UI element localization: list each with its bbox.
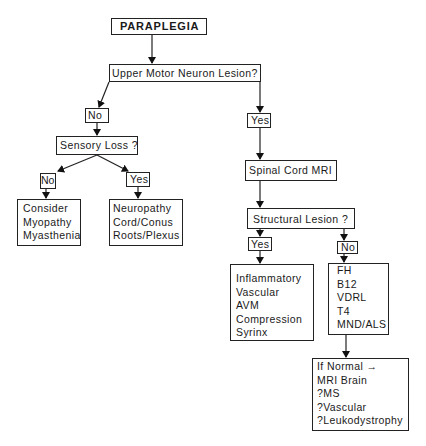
tests-line-4: T4 <box>337 305 388 319</box>
causes-line-5: Syrinx <box>236 326 313 340</box>
neuropathy-line-2: Cord/Conus <box>113 216 182 230</box>
node-structural-yes-label: Yes <box>251 238 271 250</box>
node-structural-no-label: No <box>341 242 357 253</box>
causes-line-3: AVM <box>236 299 313 313</box>
node-spinal-mri-label: Spinal Cord MRI <box>249 164 336 178</box>
node-neuropathy: Neuropathy Cord/Conus Roots/Plexus <box>109 199 183 246</box>
tests-line-2: B12 <box>337 278 388 292</box>
node-structural-question-label: Structural Lesion ? <box>253 213 354 227</box>
consider-line-3: Myasthenia <box>23 229 80 243</box>
node-structural-causes: Inflammatory Vascular AVM Compression Sy… <box>230 264 314 341</box>
causes-line-4: Compression <box>236 313 313 327</box>
node-sensory-no-label: No <box>41 174 55 188</box>
if-normal-line-5: ?Leukodystrophy <box>317 414 408 428</box>
node-sensory-question-label: Sensory Loss ? <box>60 139 137 153</box>
tests-line-3: VDRL <box>337 291 388 305</box>
node-umn-question: Upper Motor Neuron Lesion? <box>109 64 261 82</box>
neuropathy-line-3: Roots/Plexus <box>113 229 182 243</box>
node-structural-yes: Yes <box>248 237 272 251</box>
node-umn-question-label: Upper Motor Neuron Lesion? <box>112 67 260 81</box>
node-spinal-mri: Spinal Cord MRI <box>245 160 337 181</box>
node-umn-no-label: No <box>88 109 108 123</box>
causes-line-2: Vascular <box>236 286 313 300</box>
node-sensory-yes-label: Yes <box>130 173 149 187</box>
neuropathy-line-1: Neuropathy <box>113 202 182 216</box>
node-sensory-yes: Yes <box>126 172 150 187</box>
node-consider: Consider Myopathy Myasthenia <box>17 199 81 246</box>
tests-line-5: MND/ALS <box>337 318 388 332</box>
if-normal-line-3: ?MS <box>317 387 408 401</box>
node-tests: FH B12 VDRL T4 MND/ALS <box>328 263 389 335</box>
node-structural-question: Structural Lesion ? <box>247 208 355 229</box>
node-structural-no: No <box>337 241 358 254</box>
node-umn-no: No <box>85 108 109 123</box>
node-umn-yes: Yes <box>247 113 271 128</box>
causes-line-1: Inflammatory <box>236 272 313 286</box>
tests-line-1: FH <box>337 264 388 278</box>
node-if-normal: If Normal → MRI Brain ?MS ?Vascular ?Leu… <box>312 358 409 431</box>
if-normal-line-2: MRI Brain <box>317 374 408 388</box>
node-umn-yes-label: Yes <box>251 114 270 128</box>
if-normal-line-4: ?Vascular <box>317 401 408 415</box>
if-normal-line-1: If Normal → <box>317 360 408 374</box>
node-paraplegia: PARAPLEGIA <box>111 18 207 35</box>
node-sensory-no: No <box>40 173 56 189</box>
consider-line-2: Myopathy <box>23 216 80 230</box>
node-paraplegia-label: PARAPLEGIA <box>120 20 199 32</box>
consider-line-1: Consider <box>23 202 80 216</box>
node-sensory-question: Sensory Loss ? <box>56 136 138 155</box>
